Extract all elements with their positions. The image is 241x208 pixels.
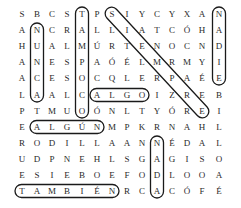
grid-letter: B xyxy=(75,168,89,182)
grid-letter: I xyxy=(45,168,59,182)
grid-letter: Y xyxy=(135,7,149,21)
grid-letter: I xyxy=(60,136,74,150)
grid-letter: G xyxy=(165,152,179,166)
grid-letter: L xyxy=(212,136,226,150)
grid-letter: N xyxy=(105,104,119,118)
grid-letter: R xyxy=(120,184,134,198)
grid-letter: Ó xyxy=(105,55,119,69)
grid-letter: E xyxy=(60,168,74,182)
grid-letter: S xyxy=(195,152,209,166)
grid-letter: R xyxy=(15,136,29,150)
grid-letter: R xyxy=(180,104,194,118)
grid-letter: M xyxy=(45,104,59,118)
grid-letter: L xyxy=(165,168,179,182)
grid-letter: E xyxy=(195,88,209,102)
grid-letter: E xyxy=(15,168,29,182)
grid-letter: A xyxy=(90,88,104,102)
grid-letter: A xyxy=(15,71,29,85)
grid-letter: R xyxy=(60,23,74,37)
grid-letter: E xyxy=(45,71,59,85)
grid-letter: O xyxy=(90,168,104,182)
grid-letter: P xyxy=(15,104,29,118)
grid-letter: E xyxy=(135,71,149,85)
grid-letter: I xyxy=(212,55,226,69)
grid-letter: Ú xyxy=(75,120,89,134)
grid-letter: E xyxy=(75,152,89,166)
grid-letter: E xyxy=(212,71,226,85)
grid-letter: A xyxy=(195,7,209,21)
grid-letter: M xyxy=(180,55,194,69)
grid-letter: P xyxy=(165,71,179,85)
grid-letter: A xyxy=(120,136,134,150)
grid-letter: L xyxy=(105,23,119,37)
grid-letter: I xyxy=(212,104,226,118)
grid-letter: O xyxy=(212,152,226,166)
grid-letter: S xyxy=(15,7,29,21)
grid-letter: N xyxy=(150,136,164,150)
grid-letter: N xyxy=(165,120,179,134)
grid-letter: É xyxy=(212,184,226,198)
grid-letter: S xyxy=(60,71,74,85)
grid-letter: O xyxy=(75,71,89,85)
grid-letter: M xyxy=(75,39,89,53)
grid-letter: E xyxy=(15,120,29,134)
word-search-grid: SBCSTPSIYCYXANANCRALLIATCÓHAHUALMÚRTENOC… xyxy=(0,0,241,208)
grid-letter: N xyxy=(212,7,226,21)
grid-letter: É xyxy=(90,184,104,198)
grid-letter: C xyxy=(165,23,179,37)
grid-letter: O xyxy=(30,136,44,150)
grid-letter: N xyxy=(30,55,44,69)
grid-letter: L xyxy=(135,55,149,69)
grid-letter: A xyxy=(45,88,59,102)
grid-letter: G xyxy=(60,120,74,134)
grid-letter: N xyxy=(90,120,104,134)
grid-letter: N xyxy=(60,152,74,166)
grid-letter: P xyxy=(90,7,104,21)
grid-letter: I xyxy=(120,23,134,37)
grid-letter: E xyxy=(195,104,209,118)
grid-letter: O xyxy=(135,88,149,102)
grid-letter: L xyxy=(212,120,226,134)
grid-letter: I xyxy=(120,7,134,21)
grid-letter: H xyxy=(195,120,209,134)
grid-letter: F xyxy=(120,168,134,182)
grid-letter: T xyxy=(150,23,164,37)
grid-letter: G xyxy=(120,88,134,102)
grid-letter: P xyxy=(45,152,59,166)
grid-letter: M xyxy=(150,55,164,69)
grid-letter: O xyxy=(75,104,89,118)
grid-letter: Ú xyxy=(90,39,104,53)
grid-letter: S xyxy=(105,7,119,21)
grid-letter: A xyxy=(180,71,194,85)
grid-letter: I xyxy=(150,88,164,102)
grid-letter: O xyxy=(180,168,194,182)
grid-letter: U xyxy=(15,152,29,166)
grid-letter: É xyxy=(195,71,209,85)
grid-letter: A xyxy=(30,184,44,198)
grid-letter: T xyxy=(75,7,89,21)
grid-letter: I xyxy=(75,184,89,198)
grid-letter: P xyxy=(120,120,134,134)
grid-letter: H xyxy=(90,152,104,166)
grid-letter: P xyxy=(75,55,89,69)
grid-letter: B xyxy=(30,7,44,21)
grid-letter: O xyxy=(195,168,209,182)
grid-letter: R xyxy=(165,55,179,69)
grid-letter: Y xyxy=(165,7,179,21)
grid-letter: S xyxy=(30,168,44,182)
grid-letter: S xyxy=(60,55,74,69)
grid-letter: Ó xyxy=(180,184,194,198)
grid-letter: A xyxy=(150,184,164,198)
grid-letter: Y xyxy=(150,104,164,118)
grid-letter: Ó xyxy=(165,104,179,118)
grid-letter: L xyxy=(105,152,119,166)
grid-letter: C xyxy=(30,71,44,85)
grid-letter: Ó xyxy=(90,104,104,118)
grid-letter: T xyxy=(120,39,134,53)
grid-letter: S xyxy=(120,152,134,166)
grid-letter: A xyxy=(15,55,29,69)
grid-letter: C xyxy=(180,39,194,53)
grid-letter: C xyxy=(45,7,59,21)
grid-letter: F xyxy=(195,184,209,198)
grid-letter: N xyxy=(135,136,149,150)
